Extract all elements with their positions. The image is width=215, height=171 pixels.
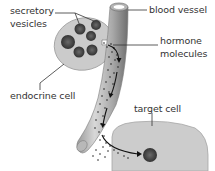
label-target-cell: target cell — [134, 103, 181, 114]
label-blood-vessel: blood vessel — [149, 4, 207, 15]
label-hormone-molecules-line2: molecules — [160, 48, 207, 59]
label-endocrine-cell: endocrine cell — [10, 90, 75, 101]
endocrine-diagram: secretory vesicles blood vessel hormone … — [0, 0, 215, 171]
label-secretory-vesicles-line2: vesicles — [10, 18, 47, 29]
target-cell — [112, 121, 208, 171]
label-hormone-molecules-line1: hormone — [160, 35, 202, 46]
label-secretory-vesicles-line1: secretory — [10, 5, 54, 16]
target-cell-nucleus — [143, 148, 157, 162]
